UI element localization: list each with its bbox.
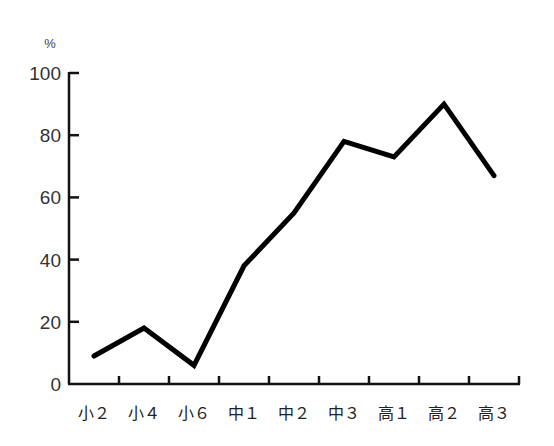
y-axis-unit-label: % [44, 36, 56, 51]
x-tick-label: 中３ [328, 404, 360, 423]
x-tick-label: 高３ [478, 404, 510, 423]
x-tick-label: 中１ [228, 404, 260, 423]
x-tick-label: 中２ [278, 404, 310, 423]
y-tick-label: 20 [40, 312, 61, 333]
y-tick-label: 0 [50, 374, 61, 395]
y-tick-label: 80 [40, 125, 61, 146]
y-tick-label: 60 [40, 187, 61, 208]
x-tick-label: 小２ [78, 404, 110, 423]
x-tick-label: 高１ [378, 404, 410, 423]
x-tick-label: 高２ [428, 404, 460, 423]
y-tick-label: 40 [40, 250, 61, 271]
x-tick-label: 小６ [178, 404, 210, 423]
data-series-line [94, 104, 494, 365]
y-tick-label: 100 [29, 63, 61, 84]
x-tick-label: 小４ [128, 404, 160, 423]
y-axis: 020406080100 [29, 63, 79, 395]
line-chart: % 020406080100 小２小４小６中１中２中３高１高２高３ [0, 0, 554, 446]
